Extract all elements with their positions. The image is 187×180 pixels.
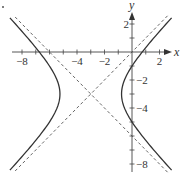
x-tick-label: −4 (71, 55, 83, 67)
y-tick-label: −8 (136, 158, 148, 170)
y-tick-labels: 2−2−4−8 (124, 18, 149, 170)
y-tick-label: −4 (136, 102, 148, 114)
asymptotes (15, 16, 168, 173)
x-tick-label: −2 (99, 55, 111, 67)
x-tick-label: 2 (157, 55, 163, 67)
x-tick-labels: −8−4−22 (16, 55, 162, 67)
asymptote-1 (15, 16, 168, 171)
marker-dot (2, 6, 4, 8)
x-axis-arrow-icon (164, 49, 172, 55)
x-tick-label: −8 (16, 55, 28, 67)
x-axis-label: x (173, 45, 180, 59)
hyperbola-branches (10, 18, 172, 170)
y-tick-label: 2 (124, 18, 130, 30)
y-axis-arrow-icon (129, 12, 135, 20)
y-tick-label: −2 (136, 74, 148, 86)
left-branch (10, 18, 60, 170)
asymptote-2 (15, 17, 168, 172)
y-axis-label: y (128, 0, 135, 12)
hyperbola-plot: −8−4−22 2−2−4−8 x y (0, 0, 187, 180)
right-branch (122, 18, 172, 170)
